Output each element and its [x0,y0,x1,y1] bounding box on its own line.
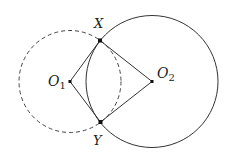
segment-o1-x [70,41,100,82]
point-o2 [151,80,154,83]
point-y [99,120,103,124]
label-o1: O1 [48,73,66,91]
segment-o1-y [70,82,101,123]
label-o2: O2 [157,65,175,83]
label-y: Y [93,133,103,148]
label-x: X [93,16,104,31]
point-x [98,39,102,43]
geometry-diagram: X Y O1 O2 [0,0,233,157]
segment-o2-y [101,82,153,123]
point-o1 [69,80,72,83]
segment-o2-x [100,41,152,82]
